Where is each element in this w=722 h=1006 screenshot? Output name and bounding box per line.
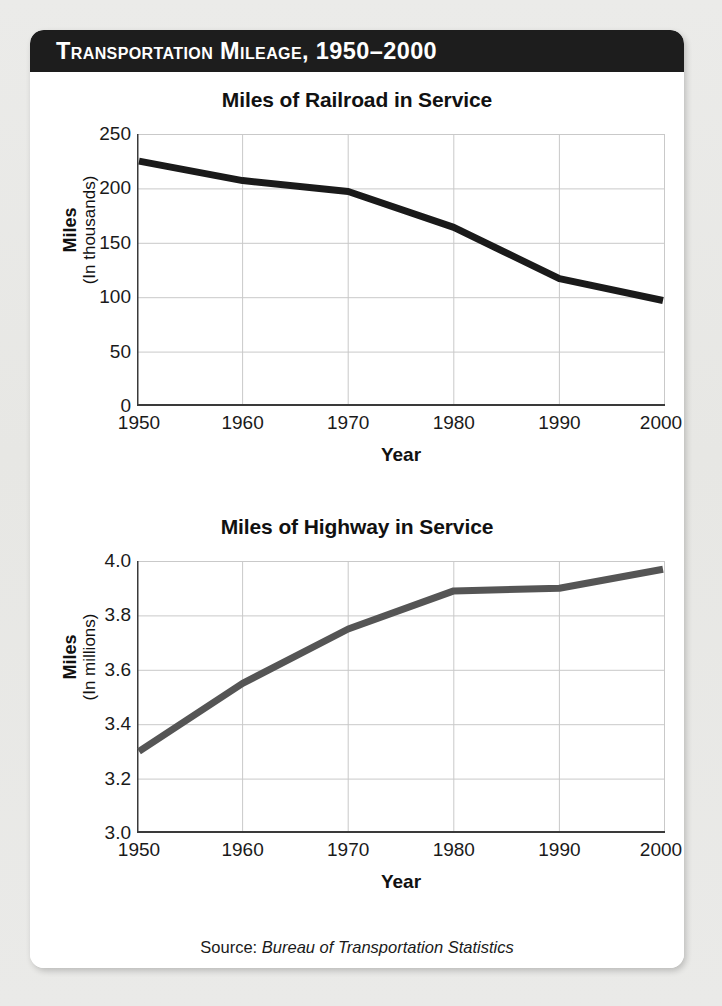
card-header-bar: Transportation Mileage, 1950–2000 xyxy=(30,30,684,72)
chart-highway: Miles of Highway in Service Miles (In mi… xyxy=(30,515,684,935)
xtick-label: 2000 xyxy=(640,839,682,861)
series-line-railroad xyxy=(139,161,663,300)
ytick-label: 150 xyxy=(73,232,131,254)
xtick-label: 1960 xyxy=(221,839,263,861)
card-body: Miles of Railroad in Service Miles (In t… xyxy=(30,72,684,968)
xtick-label: 1960 xyxy=(221,412,263,434)
source-note: Source: Bureau of Transportation Statist… xyxy=(30,938,684,957)
chart-highway-xtick-layer: 1950 1960 1970 1980 1990 2000 xyxy=(137,839,665,865)
ytick-label: 4.0 xyxy=(73,550,131,572)
xtick-label: 1990 xyxy=(538,412,580,434)
ytick-label: 100 xyxy=(73,286,131,308)
ytick-label: 250 xyxy=(73,123,131,145)
xtick-label: 1990 xyxy=(538,839,580,861)
chart-railroad-svg xyxy=(137,134,665,406)
chart-railroad-x-axis-title: Year xyxy=(137,444,665,466)
xtick-label: 1950 xyxy=(118,839,160,861)
ytick-label: 3.6 xyxy=(73,659,131,681)
source-prefix: Source: xyxy=(200,938,257,956)
horizontal-gridlines xyxy=(137,562,665,780)
ytick-label: 50 xyxy=(73,341,131,363)
vertical-gridlines xyxy=(243,561,665,833)
chart-railroad-title: Miles of Railroad in Service xyxy=(30,88,684,112)
series-line-highway xyxy=(139,569,663,751)
xtick-label: 1980 xyxy=(433,839,475,861)
chart-railroad-ytick-layer: 250 200 150 100 50 0 xyxy=(69,134,131,406)
infographic-card: Transportation Mileage, 1950–2000 Miles … xyxy=(30,30,684,968)
xtick-label: 1970 xyxy=(327,412,369,434)
chart-railroad: Miles of Railroad in Service Miles (In t… xyxy=(30,88,684,508)
ytick-label: 3.8 xyxy=(73,604,131,626)
chart-highway-svg xyxy=(137,561,665,833)
xtick-label: 1950 xyxy=(118,412,160,434)
chart-highway-x-axis-title: Year xyxy=(137,871,665,893)
page-title: Transportation Mileage, 1950–2000 xyxy=(56,38,437,65)
chart-highway-ytick-layer: 4.0 3.8 3.6 3.4 3.2 3.0 xyxy=(69,561,131,833)
xtick-label: 1980 xyxy=(433,412,475,434)
ytick-label: 3.4 xyxy=(73,713,131,735)
ytick-label: 200 xyxy=(73,177,131,199)
vertical-gridlines xyxy=(243,134,665,406)
chart-railroad-xtick-layer: 1950 1960 1970 1980 1990 2000 xyxy=(137,412,665,438)
ytick-label: 3.2 xyxy=(73,768,131,790)
source-agency: Bureau of Transportation Statistics xyxy=(262,938,514,956)
chart-highway-plot-area xyxy=(137,561,665,833)
xtick-label: 1970 xyxy=(327,839,369,861)
horizontal-gridlines xyxy=(137,135,665,353)
chart-highway-title: Miles of Highway in Service xyxy=(30,515,684,539)
xtick-label: 2000 xyxy=(640,412,682,434)
chart-railroad-plot-area xyxy=(137,134,665,406)
